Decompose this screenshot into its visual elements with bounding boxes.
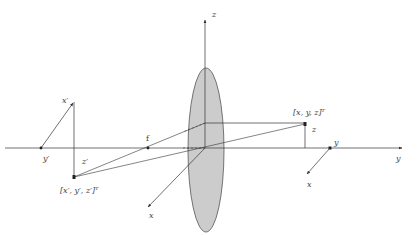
object-point (304, 122, 307, 126)
image-point-label: [x′, y′, z′]ᵀ (60, 186, 99, 195)
x-axis-label: x (149, 211, 154, 220)
z-axis-label: z (211, 10, 217, 19)
y-axis-label: y (395, 154, 401, 163)
image-y-label: y′ (42, 154, 50, 163)
image-y-point (40, 147, 43, 150)
object-y-point (329, 147, 332, 150)
object-z-label: z (311, 125, 317, 134)
lens-ellipse (188, 68, 224, 232)
focal-point (147, 147, 150, 150)
lens-diagram: z y x f [x, y, z]ᵀ z y x [x′, y′, z′]ᵀ x… (0, 0, 418, 235)
object-x-arrow (307, 148, 330, 174)
object-y-label: y (333, 138, 339, 147)
image-z-label: z′ (81, 157, 88, 166)
object-x-label: x (307, 180, 312, 189)
object-point-label: [x, y, z]ᵀ (293, 108, 326, 117)
focal-label: f (146, 134, 150, 143)
image-x-label: x′ (62, 96, 69, 105)
ray-through-focus (74, 123, 205, 177)
image-x-arrow (41, 103, 73, 148)
image-point (73, 175, 76, 179)
